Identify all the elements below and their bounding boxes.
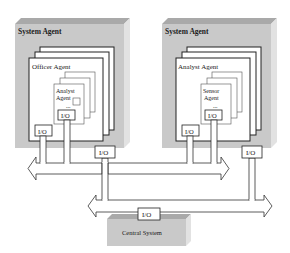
analyst-agent-label: Analyst Agent <box>178 63 218 71</box>
right-system-agent-title: System Agent <box>165 27 209 36</box>
right-ellipsis: ... <box>213 103 218 109</box>
architecture-diagram: System Agent Officer Agent Analyst Agent… <box>0 0 290 253</box>
right-inner-io-label: I/O <box>208 112 217 119</box>
analyst-subagent-label-1: Analyst <box>56 88 75 94</box>
central-io-label: I/O <box>142 211 151 219</box>
right-outer-io-label: I/O <box>185 128 194 135</box>
middle-io-label: I/O <box>99 149 108 157</box>
left-outer-io-label: I/O <box>38 128 47 135</box>
central-system: I/O Central System <box>107 208 191 246</box>
left-ellipsis: ... <box>66 103 71 109</box>
right-standalone-io: I/O <box>242 146 262 158</box>
left-system-agent: System Agent Officer Agent Analyst Agent… <box>15 18 130 148</box>
left-inner-io-label: I/O <box>61 112 70 119</box>
sensor-subagent-label-2: Agent <box>204 95 219 101</box>
middle-io: I/O <box>95 146 115 158</box>
officer-agent-label: Officer Agent <box>32 63 71 71</box>
sensor-subagent-label-1: Sensor <box>203 88 219 94</box>
lower-bus-arrow <box>88 195 272 217</box>
central-system-title: Central System <box>122 229 162 236</box>
left-system-agent-title: System Agent <box>18 27 62 36</box>
analyst-subagent-label-2: Agent <box>56 95 71 101</box>
upper-bus-arrow <box>28 157 229 180</box>
right-standalone-io-label: I/O <box>246 149 255 157</box>
right-system-agent: System Agent Analyst Agent Sensor Agent … <box>162 18 277 148</box>
